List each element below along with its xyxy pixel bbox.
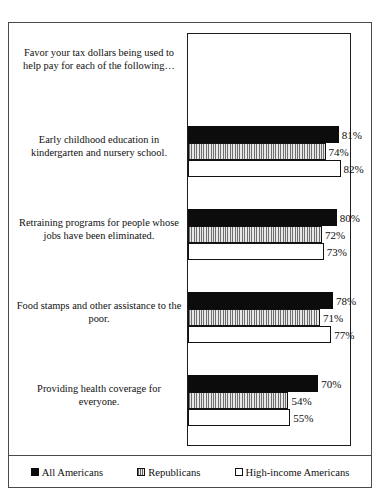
legend-swatch-icon (235, 468, 243, 476)
chart-title: Favor your tax dollars being used to hel… (16, 46, 188, 72)
bar-high-income-americans[interactable] (188, 326, 331, 343)
chart-band-early-childhood-education: Early childhood education in kindergarte… (188, 117, 350, 200)
bar-high-income-americans[interactable] (188, 243, 324, 260)
bar-all-americans[interactable] (188, 375, 318, 392)
bar-all-americans[interactable] (188, 209, 337, 226)
legend-label: Republicans (148, 467, 200, 478)
legend-item-high-income-americans[interactable]: High-income Americans (235, 467, 350, 478)
bar-value-republicans: 71% (320, 312, 343, 323)
bar-value-republicans: 72% (322, 229, 345, 240)
category-label: Early childhood education in kindergarte… (16, 133, 188, 159)
bar-group: 81% 74% 82% (188, 117, 350, 200)
chart-band-title: Favor your tax dollars being used to hel… (188, 34, 350, 117)
bar-high-income-americans[interactable] (188, 409, 290, 426)
category-label: Food stamps and other assistance to the … (16, 299, 188, 325)
bar-all-americans[interactable] (188, 126, 339, 143)
bar-value-high-income-americans: 73% (324, 246, 347, 257)
bar-high-income-americans[interactable] (188, 160, 341, 177)
chart-frame: Favor your tax dollars being used to hel… (8, 22, 372, 488)
legend-label: All Americans (42, 467, 104, 478)
bar-republicans[interactable] (188, 309, 320, 326)
bar-value-high-income-americans: 82% (341, 163, 364, 174)
legend-item-republicans[interactable]: Republicans (137, 467, 200, 478)
chart-band-health-coverage: Providing health coverage for everyone. … (188, 366, 350, 447)
legend-swatch-icon (137, 468, 145, 476)
bar-republicans[interactable] (188, 226, 322, 243)
category-label: Providing health coverage for everyone. (16, 382, 188, 408)
bar-value-all-americans: 80% (337, 212, 360, 223)
plot-area: Favor your tax dollars being used to hel… (187, 33, 351, 446)
legend-item-all-americans[interactable]: All Americans (31, 467, 104, 478)
bar-republicans[interactable] (188, 143, 326, 160)
bar-republicans[interactable] (188, 392, 288, 409)
bar-value-high-income-americans: 77% (331, 329, 354, 340)
legend-label: High-income Americans (246, 467, 350, 478)
bar-all-americans[interactable] (188, 292, 333, 309)
bar-value-republicans: 74% (326, 146, 349, 157)
bar-group: 70% 54% 55% (188, 366, 350, 447)
bar-group: 78% 71% 77% (188, 283, 350, 366)
category-label: Retraining programs for people whose job… (16, 216, 188, 242)
bar-value-high-income-americans: 55% (290, 412, 313, 423)
bar-value-all-americans: 78% (333, 295, 356, 306)
legend-swatch-icon (31, 468, 39, 476)
bar-value-all-americans: 70% (318, 378, 341, 389)
bar-group: 80% 72% 73% (188, 200, 350, 283)
chart-band-retraining-programs: Retraining programs for people whose job… (188, 200, 350, 283)
chart-legend: All Americans Republicans High-income Am… (8, 455, 372, 488)
chart-band-food-stamps: Food stamps and other assistance to the … (188, 283, 350, 366)
bar-value-all-americans: 81% (339, 129, 362, 140)
bar-value-republicans: 54% (288, 395, 311, 406)
